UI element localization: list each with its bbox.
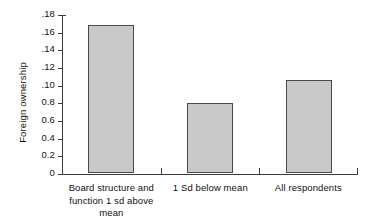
y-axis-tick: 0.4 bbox=[58, 139, 62, 140]
y-axis-tick: .10 bbox=[58, 86, 62, 87]
bar bbox=[286, 80, 332, 173]
y-axis-tick: 0.2 bbox=[58, 156, 62, 157]
x-axis-tick bbox=[259, 168, 260, 174]
y-axis-top-cap bbox=[62, 15, 66, 16]
bar-chart-figure: Foreign ownership .18.16.14.12.100.80.60… bbox=[0, 0, 365, 224]
y-axis-tick-label: .10 bbox=[41, 79, 55, 90]
bar bbox=[187, 103, 233, 173]
y-axis-tick: 0.6 bbox=[58, 121, 62, 122]
category-label-line: function 1 sd above bbox=[54, 195, 169, 208]
y-axis-tick-label: 0 bbox=[50, 167, 55, 178]
y-axis-tick: .14 bbox=[58, 50, 62, 51]
y-axis-tick-label: 0.2 bbox=[41, 149, 55, 160]
y-axis-tick-label: 0.8 bbox=[41, 96, 55, 107]
category-label-line: All respondents bbox=[251, 182, 365, 195]
category-label-line: mean bbox=[54, 207, 169, 220]
y-axis-tick: .12 bbox=[58, 68, 62, 69]
bar bbox=[88, 25, 134, 173]
x-axis-line bbox=[62, 174, 358, 175]
y-axis-line bbox=[62, 15, 63, 175]
x-axis-end-tick bbox=[357, 168, 358, 174]
plot-area: .18.16.14.12.100.80.60.40.20 bbox=[62, 15, 358, 174]
x-axis-category-label: Board structure andfunction 1 sd aboveme… bbox=[54, 182, 169, 220]
y-axis-title: Foreign ownership bbox=[17, 23, 28, 183]
y-axis-tick-label: 0.6 bbox=[41, 114, 55, 125]
y-axis-tick: .18 bbox=[58, 15, 62, 16]
y-axis-tick-label: .16 bbox=[41, 26, 55, 37]
y-axis-tick: 0 bbox=[58, 174, 62, 175]
y-axis-tick: .16 bbox=[58, 33, 62, 34]
x-axis-category-label: All respondents bbox=[251, 182, 365, 195]
category-label-line: Board structure and bbox=[54, 182, 169, 195]
x-axis-tick bbox=[161, 168, 162, 174]
y-axis-tick-label: 0.4 bbox=[41, 132, 55, 143]
y-axis-tick-label: .12 bbox=[41, 61, 55, 72]
y-axis-tick-label: .18 bbox=[41, 8, 55, 19]
y-axis-tick-label: .14 bbox=[41, 43, 55, 54]
y-axis-tick: 0.8 bbox=[58, 103, 62, 104]
